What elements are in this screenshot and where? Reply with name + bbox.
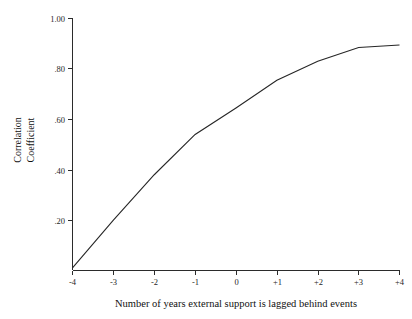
x-tick-label-plus3: +3 <box>354 277 363 287</box>
y-tick-label-.60: .60 <box>54 115 65 125</box>
x-tick-label--1: -1 <box>192 277 199 287</box>
x-tick-label-plus4: +4 <box>395 277 405 287</box>
y-tick-label-.80: .80 <box>54 64 65 74</box>
x-tick-label--4: -4 <box>69 277 77 287</box>
y-tick-label-.40: .40 <box>54 166 65 176</box>
line-chart: 1.00 .80 .60 .40 .20 -4 -3 -2 -1 0 +1 +2… <box>0 0 412 319</box>
y-axis-title-line2: Coefficient <box>25 117 36 162</box>
y-tick-label-1.00: 1.00 <box>50 14 65 24</box>
chart-background <box>0 0 412 319</box>
y-axis-title-line1: Correlation <box>12 117 23 163</box>
y-tick-label-.20: .20 <box>54 216 65 226</box>
x-axis-title: Number of years external support is lagg… <box>115 298 357 309</box>
chart-figure: 1.00 .80 .60 .40 .20 -4 -3 -2 -1 0 +1 +2… <box>0 0 412 319</box>
x-tick-label-plus2: +2 <box>314 277 323 287</box>
x-tick-label-0: 0 <box>234 277 238 287</box>
x-tick-label--3: -3 <box>110 277 117 287</box>
x-tick-label--2: -2 <box>151 277 158 287</box>
x-tick-label-plus1: +1 <box>273 277 282 287</box>
